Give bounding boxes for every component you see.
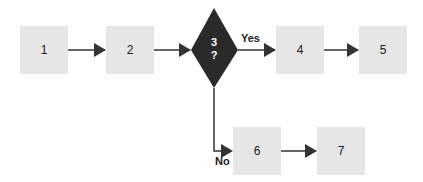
- arrow-3-to-6-no: [214, 88, 231, 151]
- node-3-label: 3 ?: [204, 36, 224, 62]
- arrowhead-icon: [347, 43, 359, 57]
- node-4-label: 4: [297, 43, 304, 57]
- node-6: 6: [233, 127, 281, 175]
- node-5: 5: [359, 26, 407, 74]
- node-7-label: 7: [338, 144, 345, 158]
- node-1-label: 1: [41, 43, 48, 57]
- arrowhead-icon: [305, 144, 317, 158]
- node-7: 7: [317, 127, 365, 175]
- node-3-number: 3: [204, 36, 224, 49]
- node-3-question-mark: ?: [204, 49, 224, 62]
- arrowhead-icon: [94, 43, 106, 57]
- arrowhead-icon: [179, 43, 191, 57]
- node-5-label: 5: [380, 43, 387, 57]
- node-2-label: 2: [127, 43, 134, 57]
- yes-label: Yes: [241, 32, 260, 44]
- node-1: 1: [20, 26, 68, 74]
- node-4: 4: [276, 26, 324, 74]
- node-2: 2: [106, 26, 154, 74]
- no-label: No: [215, 155, 230, 167]
- node-6-label: 6: [254, 144, 261, 158]
- arrowhead-icon: [264, 43, 276, 57]
